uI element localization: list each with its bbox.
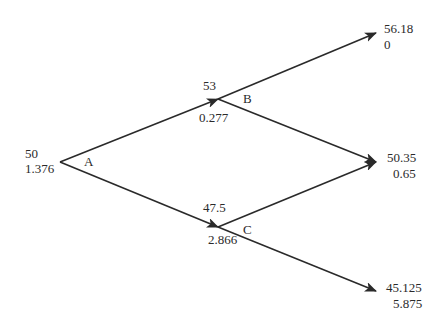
node-ud-price: 50.35: [387, 150, 416, 165]
node-c-price: 47.5: [203, 200, 226, 215]
node-b-price: 53: [203, 78, 216, 93]
node-b-value: 0.277: [199, 110, 228, 125]
node-a-price: 50: [25, 146, 38, 161]
node-a-label: A: [84, 154, 93, 169]
node-a-value: 1.376: [25, 161, 54, 176]
edge-c-dd: [218, 227, 376, 291]
node-b-label: B: [243, 91, 252, 106]
node-uu-value: 0: [384, 37, 391, 52]
tree-edges: [0, 0, 445, 327]
node-dd-value: 5.875: [393, 296, 422, 311]
node-c-label: C: [243, 222, 252, 237]
node-dd-price: 45.125: [386, 280, 422, 295]
node-uu-price: 56.18: [384, 21, 413, 36]
edge-a-c: [60, 162, 218, 227]
node-ud-value: 0.65: [393, 166, 416, 181]
edge-b-ud: [218, 99, 376, 162]
edge-b-uu: [218, 33, 376, 99]
edge-a-b: [60, 99, 218, 162]
node-c-value: 2.866: [208, 232, 237, 247]
edge-c-ud: [218, 162, 376, 227]
